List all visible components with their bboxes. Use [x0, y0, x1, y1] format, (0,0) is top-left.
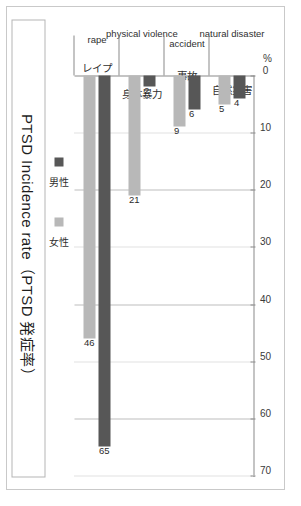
bar-value-label: 21: [129, 194, 140, 205]
legend-item-female[interactable]: 女性: [51, 217, 66, 251]
category-separator: [118, 35, 119, 75]
chart-title-box: PTSD Incidence rate（PTSD 発症率）: [11, 19, 45, 477]
axis-tick-10: [250, 132, 255, 133]
category-separator-end: [73, 35, 74, 75]
bar-female-natural-disaster[interactable]: [218, 75, 230, 104]
category-label-natural-disaster: natural disaster自然災害: [209, 35, 254, 75]
axis-tick-40: [250, 304, 255, 305]
legend-label: 男性: [49, 174, 69, 189]
bar-male-accident[interactable]: [188, 75, 200, 109]
bar-male-natural-disaster[interactable]: [233, 75, 245, 98]
bar-value-label: 65: [98, 445, 109, 456]
bar-value-label: 46: [84, 336, 95, 347]
axes: % 010203040506070 natural disaster自然災害ac…: [74, 75, 254, 475]
axis-tick-60: [250, 418, 255, 419]
gridline-70: [74, 475, 254, 476]
bar-value-label: 2: [143, 85, 148, 96]
category-separator: [208, 35, 209, 75]
bar-value-label: 9: [174, 125, 179, 136]
axis-tick-label-10: 10: [259, 121, 270, 132]
category-label-jp: 自然災害: [212, 82, 252, 97]
page-frame: % 010203040506070 natural disaster自然災害ac…: [6, 6, 285, 490]
plot-area: % 010203040506070 natural disaster自然災害ac…: [52, 7, 280, 489]
bar-value-label: 6: [188, 108, 193, 119]
chart-stage: % 010203040506070 natural disaster自然災害ac…: [7, 7, 284, 489]
category-separator: [163, 35, 164, 75]
axis-tick-label-70: 70: [259, 464, 270, 475]
axis-unit-label: %: [263, 52, 272, 63]
value-axis-line: [253, 75, 254, 475]
category-label-en: rape: [87, 33, 106, 44]
chart-legend: 男性女性: [51, 157, 66, 251]
axis-tick-70: [250, 475, 255, 476]
legend-swatch-icon: [54, 217, 63, 226]
axis-tick-50: [250, 361, 255, 362]
category-label-jp: レイプ: [82, 59, 112, 74]
legend-label: 女性: [49, 234, 69, 249]
category-label-physical-violence: physical violence身体暴力: [119, 35, 164, 75]
axis-tick-label-40: 40: [259, 293, 270, 304]
axis-tick-label-0: 0: [262, 64, 268, 75]
bar-female-accident[interactable]: [173, 75, 185, 126]
axis-tick-label-50: 50: [259, 350, 270, 361]
axis-tick-label-60: 60: [259, 407, 270, 418]
bar-value-label: 4: [233, 96, 238, 107]
bar-male-rape[interactable]: [98, 75, 110, 446]
axis-tick-20: [250, 189, 255, 190]
category-label-rape: rapeレイプ: [74, 35, 119, 75]
category-label-jp: 身体暴力: [122, 85, 162, 100]
bar-female-rape[interactable]: [83, 75, 95, 338]
bar-value-label: 5: [219, 102, 224, 113]
axis-tick-label-20: 20: [259, 178, 270, 189]
legend-swatch-icon: [54, 157, 63, 166]
category-label-accident: accident事故: [164, 35, 209, 75]
bar-female-physical-violence[interactable]: [128, 75, 140, 195]
chart-title: PTSD Incidence rate（PTSD 発症率）: [18, 113, 39, 382]
legend-item-male[interactable]: 男性: [51, 157, 66, 191]
axis-tick-label-30: 30: [259, 235, 270, 246]
category-label-en: accident: [169, 38, 204, 49]
axis-tick-30: [250, 246, 255, 247]
